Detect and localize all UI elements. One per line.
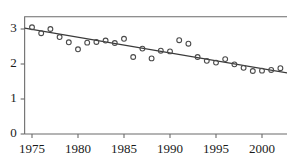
data-point-marker: [48, 27, 53, 32]
trend-line: [25, 28, 287, 73]
data-point-marker: [122, 36, 127, 41]
data-point-marker: [186, 41, 191, 46]
x-tick-label: 2000: [249, 141, 275, 156]
y-tick-label: 1: [10, 90, 17, 105]
data-point-marker: [57, 35, 62, 40]
axis-ticks: [21, 29, 262, 138]
x-tick-label: 1995: [203, 141, 229, 156]
data-point-marker: [250, 69, 255, 74]
data-point-marker: [39, 31, 44, 36]
data-point-marker: [131, 55, 136, 60]
data-point-marker: [66, 40, 71, 45]
data-point-marker: [241, 65, 246, 70]
data-point-marker: [85, 40, 90, 45]
y-tick-label: 3: [10, 20, 17, 35]
data-point-marker: [223, 57, 228, 62]
x-tick-label: 1990: [157, 141, 183, 156]
y-tick-label: 0: [10, 125, 17, 140]
y-tick-label: 2: [10, 55, 17, 70]
x-tick-label: 1985: [111, 141, 137, 156]
data-point-marker: [278, 66, 283, 71]
x-tick-label: 1975: [19, 141, 45, 156]
regression-line: [25, 28, 287, 73]
data-points: [30, 25, 283, 74]
x-tick-label: 1980: [65, 141, 91, 156]
data-point-marker: [177, 38, 182, 43]
plot-area: 0123197519801985199019952000: [0, 0, 287, 168]
scatter-chart: 0123197519801985199019952000: [0, 0, 287, 168]
data-point-marker: [76, 47, 81, 52]
data-point-marker: [149, 56, 154, 61]
axis-tick-labels: 0123197519801985199019952000: [10, 20, 275, 156]
